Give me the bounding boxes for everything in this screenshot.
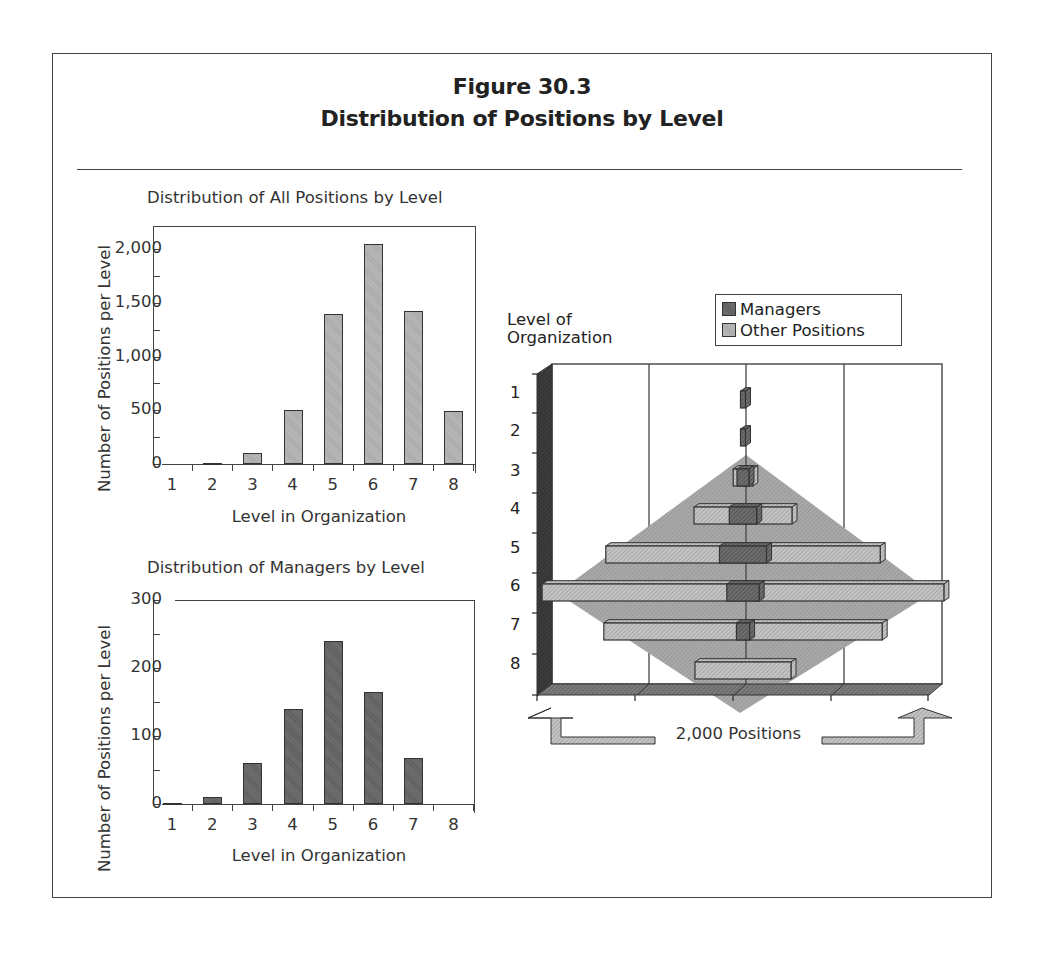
pyramid-level-label: 8 bbox=[510, 654, 521, 673]
pyramid-level-label: 2 bbox=[510, 421, 521, 440]
pyramid-level-label: 5 bbox=[510, 538, 521, 557]
pyramid-plot bbox=[0, 0, 1044, 959]
pyramid-level-label: 4 bbox=[510, 499, 521, 518]
left-arrow bbox=[528, 708, 655, 744]
pyramid-level-label: 7 bbox=[510, 615, 521, 634]
pyramid-level-label: 3 bbox=[510, 461, 521, 480]
pyramid-level-label: 1 bbox=[510, 383, 521, 402]
pyramid-xlabel: 2,000 Positions bbox=[655, 724, 822, 743]
pyramid-level-label: 6 bbox=[510, 576, 521, 595]
right-arrow bbox=[822, 708, 952, 744]
